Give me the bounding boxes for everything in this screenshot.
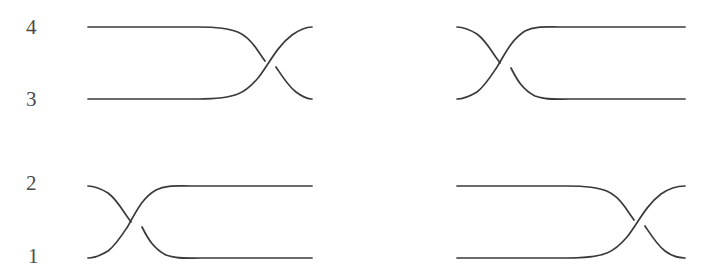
- over-strand-top-right: [457, 27, 685, 99]
- under-strand-segment-a-top-left: [88, 27, 265, 61]
- strand-label-4: 4: [26, 17, 37, 38]
- under-strand-segment-b-top-left: [276, 67, 312, 99]
- under-strand-segment-a-top-right: [457, 27, 500, 63]
- under-strand-segment-b-bottom-right: [645, 226, 685, 258]
- braid-panel-top-right: [449, 0, 694, 140]
- braid-panel-bottom-left: [80, 158, 325, 280]
- strand-label-3: 3: [26, 89, 37, 110]
- over-strand-top-left: [88, 27, 312, 99]
- under-strand-segment-a-bottom-left: [88, 186, 131, 222]
- under-strand-segment-a-bottom-right: [457, 186, 634, 220]
- over-strand-bottom-left: [88, 186, 312, 258]
- braid-diagram-canvas: 4 3 2 1: [0, 0, 709, 280]
- strand-label-2: 2: [26, 173, 37, 194]
- braid-panel-bottom-right: [449, 158, 694, 280]
- strand-label-1: 1: [28, 246, 39, 267]
- over-strand-bottom-right: [457, 186, 685, 258]
- under-strand-segment-b-top-right: [511, 68, 685, 99]
- braid-panel-top-left: [80, 0, 325, 140]
- under-strand-segment-b-bottom-left: [142, 227, 312, 258]
